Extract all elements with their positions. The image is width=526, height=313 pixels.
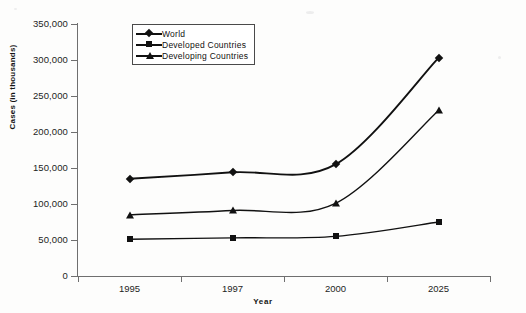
square-marker-icon — [230, 235, 236, 241]
data-point-triangle — [126, 211, 134, 218]
diamond-marker-icon — [331, 160, 339, 168]
legend-item-developed-countries[interactable]: Developed Countries — [136, 39, 248, 50]
y-axis-tick-label: 150,000 — [0, 162, 68, 174]
y-axis-tick-label: 200,000 — [0, 126, 68, 138]
data-point-square — [333, 233, 339, 239]
scan-speckle — [306, 11, 314, 14]
legend-swatch — [136, 28, 162, 39]
y-axis-tick — [71, 24, 77, 25]
data-point-diamond — [436, 55, 442, 61]
data-point-square — [230, 235, 236, 241]
triangle-marker-icon — [332, 200, 340, 207]
diamond-marker-icon — [125, 175, 133, 183]
y-axis-tick-label: 100,000 — [0, 198, 68, 210]
triangle-marker-icon — [435, 107, 443, 114]
square-glyph — [146, 41, 152, 47]
y-axis-tick-label-text: 50,000 — [38, 234, 68, 245]
series-line-world — [130, 58, 439, 179]
x-axis-tick-label: 2000 — [296, 283, 376, 294]
data-point-triangle — [435, 107, 443, 114]
data-point-square — [436, 219, 442, 225]
data-point-triangle — [229, 207, 237, 214]
x-axis-tick — [387, 277, 388, 282]
x-axis-tick — [284, 277, 285, 282]
triangle-marker-icon — [126, 211, 134, 218]
data-point-diamond — [127, 176, 133, 182]
y-axis-tick — [71, 204, 77, 205]
legend-item-developing-countries[interactable]: Developing Countries — [136, 50, 248, 61]
y-axis-tick — [71, 240, 77, 241]
triangle-glyph — [146, 52, 154, 59]
data-point-diamond — [230, 169, 236, 175]
y-axis-tick-label: 350,000 — [0, 18, 68, 30]
chart-legend: WorldDeveloped CountriesDeveloping Count… — [132, 24, 255, 65]
y-axis-tick-label-text: 150,000 — [33, 162, 68, 173]
x-axis-tick — [181, 277, 182, 282]
series-lines — [0, 0, 526, 313]
y-axis-tick-label-text: 300,000 — [33, 54, 68, 65]
legend-item-label: World — [162, 29, 185, 39]
triangle-marker-icon — [229, 207, 237, 214]
legend-swatch — [136, 50, 162, 61]
diamond-glyph — [145, 29, 153, 37]
square-marker-icon — [436, 219, 442, 225]
y-axis-tick-label: 300,000 — [0, 54, 68, 66]
data-point-triangle — [332, 200, 340, 207]
y-axis-tick-label-text: 250,000 — [33, 90, 68, 101]
y-axis-tick-label-text: 100,000 — [33, 198, 68, 209]
legend-item-label: Developed Countries — [162, 40, 246, 50]
x-axis-tick-label: 2025 — [399, 283, 479, 294]
square-marker-icon — [333, 233, 339, 239]
series-line-developing-countries — [130, 110, 439, 214]
triangle-marker-icon — [146, 52, 154, 59]
data-point-diamond — [333, 161, 339, 167]
y-axis-tick — [71, 96, 77, 97]
x-axis-title: Year — [0, 297, 526, 306]
y-axis-line — [77, 23, 78, 277]
diamond-marker-icon — [228, 168, 236, 176]
legend-item-world[interactable]: World — [136, 28, 248, 39]
data-point-square — [127, 236, 133, 242]
y-axis-tick — [71, 60, 77, 61]
x-axis-tick — [78, 277, 79, 282]
legend-item-label: Developing Countries — [162, 51, 248, 61]
x-axis-tick-label: 1997 — [193, 283, 273, 294]
diamond-marker-icon — [146, 30, 152, 36]
scan-speckle — [14, 8, 17, 10]
legend-swatch — [136, 39, 162, 50]
series-line-developed-countries — [130, 222, 439, 239]
x-axis-tick-label: 1995 — [90, 283, 170, 294]
y-axis-tick-label: 50,000 — [0, 234, 68, 246]
scan-speckle — [498, 56, 501, 59]
y-axis-tick-label-text: 200,000 — [33, 126, 68, 137]
y-axis-tick-label: 250,000 — [0, 90, 68, 102]
diamond-marker-icon — [434, 54, 442, 62]
y-axis-tick — [71, 132, 77, 133]
x-axis-tick — [490, 277, 491, 282]
y-axis-tick-label: 0 — [0, 270, 68, 282]
square-marker-icon — [127, 236, 133, 242]
y-axis-tick — [71, 168, 77, 169]
y-axis-tick-label-text: 350,000 — [33, 18, 68, 29]
chart-screenshot: Cases (in thousands) 050,000100,000150,0… — [0, 0, 526, 313]
y-axis-tick-label-text: 0 — [63, 270, 68, 281]
square-marker-icon — [146, 41, 152, 47]
